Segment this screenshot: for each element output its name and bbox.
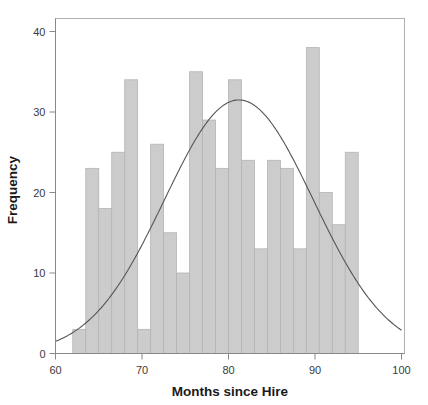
histogram-bar xyxy=(332,225,345,354)
histogram-bar xyxy=(280,168,293,353)
x-tick-label: 80 xyxy=(222,364,234,376)
histogram-bar xyxy=(125,80,138,354)
x-axis-title: Months since Hire xyxy=(172,384,289,399)
x-tick-label: 70 xyxy=(136,364,148,376)
histogram-bar xyxy=(190,72,203,354)
y-axis-title: Frequency xyxy=(5,155,20,224)
histogram-bar xyxy=(345,152,358,353)
y-tick-label: 40 xyxy=(33,26,45,38)
y-tick-label: 30 xyxy=(33,106,45,118)
x-tick-label: 60 xyxy=(49,364,61,376)
histogram-bar xyxy=(112,152,125,353)
histogram-bar xyxy=(73,329,86,353)
chart-canvas: 010203040 60708090100 Months since Hire … xyxy=(0,0,428,405)
histogram-bar xyxy=(86,168,99,353)
y-tick-label: 10 xyxy=(33,267,45,279)
histogram-bar xyxy=(293,249,306,354)
histogram-bar xyxy=(203,120,216,353)
histogram-bar xyxy=(229,80,242,354)
x-tick-label: 100 xyxy=(392,364,410,376)
histogram-bar xyxy=(177,273,190,354)
y-tick-label: 0 xyxy=(39,348,45,360)
histogram-figure: 010203040 60708090100 Months since Hire … xyxy=(0,0,428,405)
histogram-bar xyxy=(138,329,151,353)
histogram-bar xyxy=(254,249,267,354)
histogram-bar xyxy=(306,48,319,354)
histogram-bar xyxy=(216,168,229,353)
histogram-bar xyxy=(164,233,177,354)
histogram-bar xyxy=(151,144,164,353)
y-tick-label: 20 xyxy=(33,187,45,199)
histogram-bar xyxy=(241,160,254,353)
histogram-bar xyxy=(267,160,280,353)
x-tick-label: 90 xyxy=(309,364,321,376)
histogram-bar xyxy=(99,209,112,354)
